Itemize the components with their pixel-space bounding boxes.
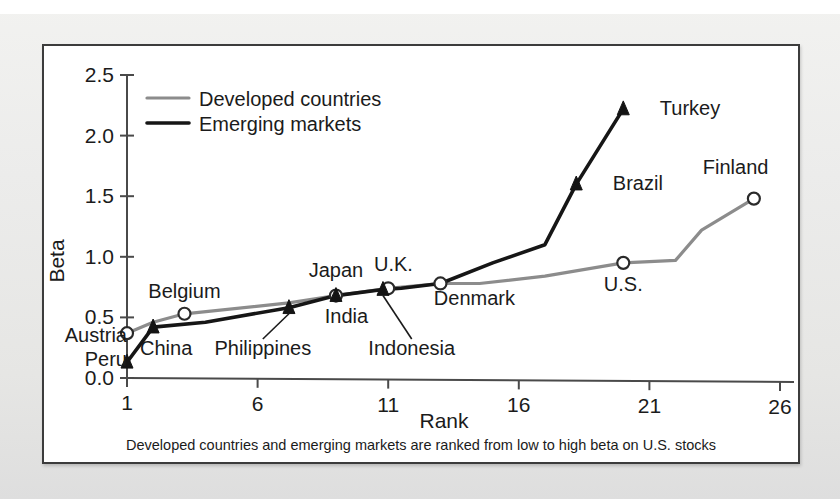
label-peru: Peru [85,348,127,370]
label-finland: Finland [703,156,769,178]
y-tick-label: 1.5 [85,184,114,207]
x-tick-label: 16 [507,393,530,416]
marker-u-s- [617,257,629,269]
marker-belgium [178,308,190,320]
data-markers [121,101,760,368]
x-tick-label: 26 [768,395,791,418]
y-tick-label: 2.0 [85,124,114,147]
label-turkey: Turkey [660,97,720,119]
legend-label-1: Developed countries [199,88,381,110]
x-tick-label: 21 [638,394,661,417]
series-line-developed-countries [127,199,754,334]
x-axis-title: Rank [419,409,469,432]
y-axis-title: Beta [45,239,68,283]
x-tick-label: 11 [377,393,399,416]
data-series [127,109,754,362]
plot-area: 0.00.51.01.52.02.51611162126 Beta Rank A… [45,63,794,432]
label-belgium: Belgium [148,280,220,302]
x-tick-label: 1 [121,391,133,414]
point-annotations: AustriaBelgiumJapanU.K.DenmarkU.S.Finlan… [65,97,769,370]
x-tick-label: 6 [252,392,264,415]
x-axis-line [127,378,794,382]
beta-rank-line-chart: 0.00.51.01.52.02.51611162126 Beta Rank A… [44,46,798,462]
label-indonesia: Indonesia [368,337,456,359]
label-brazil: Brazil [613,172,663,194]
scanned-page-background: 0.00.51.01.52.02.51611162126 Beta Rank A… [0,0,840,499]
leader-line-philippines [263,314,289,339]
chart-legend: Developed countriesEmerging markets [147,88,381,135]
marker-turkey [617,101,629,115]
y-tick-label: 1.0 [85,245,114,268]
legend-label-2: Emerging markets [199,113,361,135]
label-austria: Austria [65,324,128,346]
label-denmark: Denmark [434,287,516,309]
leader-line-indonesia [383,296,412,339]
label-india: India [325,305,369,327]
marker-finland [748,193,760,205]
series-line-emerging-markets [127,109,623,362]
label-philippines: Philippines [214,337,311,359]
label-u.k.: U.K. [374,253,413,275]
label-china: China [140,337,193,359]
y-tick-label: 2.5 [85,63,114,86]
label-japan: Japan [309,259,364,281]
figure-caption: Developed countries and emerging markets… [126,437,716,453]
label-u.s.: U.S. [604,273,643,295]
figure-panel: 0.00.51.01.52.02.51611162126 Beta Rank A… [42,44,800,464]
